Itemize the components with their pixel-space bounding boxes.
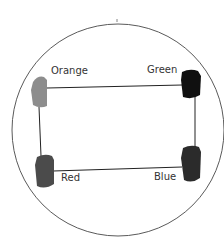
edge-red-orange bbox=[39, 107, 41, 156]
outer-circle bbox=[12, 24, 224, 236]
node-blue-swatch bbox=[181, 146, 201, 182]
node-green-swatch bbox=[181, 70, 201, 98]
label-orange: Orange bbox=[51, 65, 88, 76]
node-red-swatch bbox=[35, 155, 54, 188]
label-red: Red bbox=[61, 172, 80, 183]
node-orange-swatch bbox=[31, 77, 47, 108]
edge-orange-green bbox=[47, 85, 182, 88]
label-blue: Blue bbox=[154, 171, 176, 182]
diagram-canvas bbox=[0, 0, 224, 247]
label-green: Green bbox=[147, 64, 177, 75]
